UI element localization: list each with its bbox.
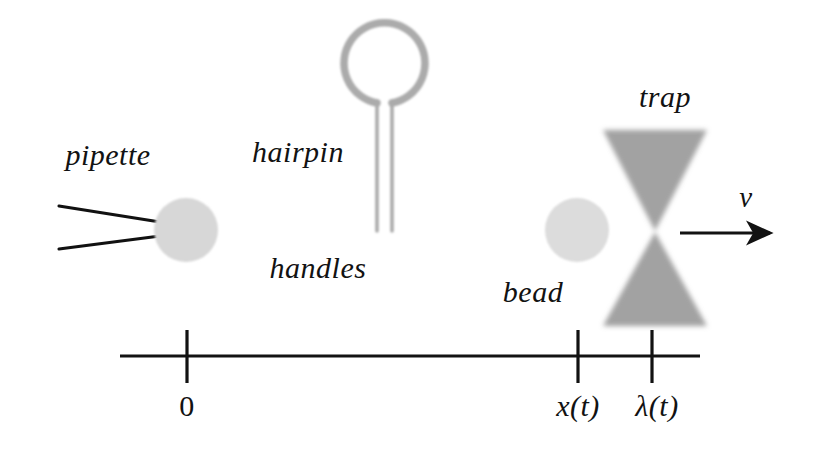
label-bead: bead [503,277,563,307]
coordinate-axis [120,330,700,383]
pipette-bead [154,198,218,262]
pipette-icon [59,206,160,249]
label-trap: trap [639,82,691,112]
trapped-bead [545,198,609,262]
axis-tick-label-origin: 0 [179,391,195,421]
label-pipette: pipette [65,140,150,170]
axis-tick-label-trap-position: λ(t) [635,391,678,421]
label-handles: handles [270,253,367,283]
optical-trap-icon [603,130,707,326]
figure-canvas: pipette hairpin handles bead trap v 0 x(… [0,0,815,463]
label-hairpin: hairpin [252,137,344,167]
label-velocity: v [739,183,752,212]
dna-hairpin [344,23,425,231]
axis-tick-label-bead-position: x(t) [556,391,600,421]
schematic-drawing [0,0,815,463]
